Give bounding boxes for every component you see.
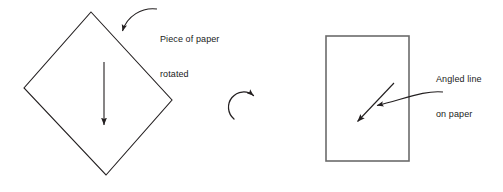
annotation-angled-line1: Angled line <box>436 74 482 86</box>
clockwise-rotation-arrow <box>228 92 253 119</box>
callout-arrow-to-diamond <box>123 9 158 31</box>
annotation-rotated-line2: rotated <box>160 69 219 81</box>
annotation-angled-line2: on paper <box>436 109 482 121</box>
upright-paper <box>326 36 409 161</box>
rotated-square-paper <box>24 12 172 175</box>
annotation-label-angled-line: Angled line on paper <box>436 51 482 143</box>
diagram-canvas: Piece of paper rotated Angled line on pa… <box>0 0 503 192</box>
annotation-rotated-line1: Piece of paper <box>160 34 219 46</box>
figure-svg <box>0 0 503 192</box>
callout-arrow-to-angled-line <box>377 92 443 106</box>
annotation-label-rotated-paper: Piece of paper rotated <box>160 11 219 103</box>
